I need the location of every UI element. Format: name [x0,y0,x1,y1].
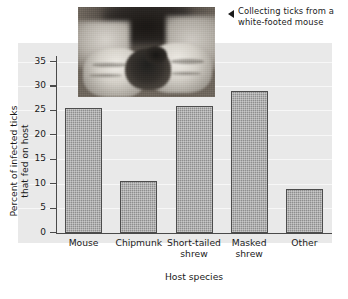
y-axis-tick [50,110,56,111]
y-axis-tick [50,134,56,135]
x-axis-label-short-tailed-shrew: Short-tailedshrew [162,238,225,259]
y-axis-tick [50,208,56,209]
y-axis-line [56,56,57,234]
bar-mouse [65,108,102,233]
y-axis-title: Percent of infected ticksthat fed on hos… [8,0,30,88]
y-axis-tick [50,61,56,62]
x-axis-label-other: Other [273,238,336,249]
y-axis-tick [50,183,56,184]
bar-chipmunk [120,181,157,232]
x-axis-line [56,233,332,234]
photograph-inset [78,7,215,97]
figure-caption-text: Collecting ticks from a white-footed mou… [238,6,346,28]
x-axis-title: Host species [56,271,332,282]
left-triangle-icon [228,10,234,18]
bar-short-tailed-shrew [176,106,213,233]
x-axis-label-chipmunk: Chipmunk [107,238,170,249]
y-axis-tick [50,232,56,233]
x-axis-label-masked-shrew: Maskedshrew [218,238,281,259]
y-axis-tick [50,85,56,86]
photo-grain-overlay [78,7,215,97]
y-axis-title-text: Percent of infected ticksthat fed on hos… [8,86,30,236]
bar-masked-shrew [231,91,268,233]
x-axis-label-mouse: Mouse [52,238,115,249]
y-axis-tick [50,159,56,160]
figure-panel: Collecting ticks from a white-footed mou… [0,0,348,299]
figure-caption: Collecting ticks from a white-footed mou… [228,6,346,28]
bar-other [286,189,323,233]
